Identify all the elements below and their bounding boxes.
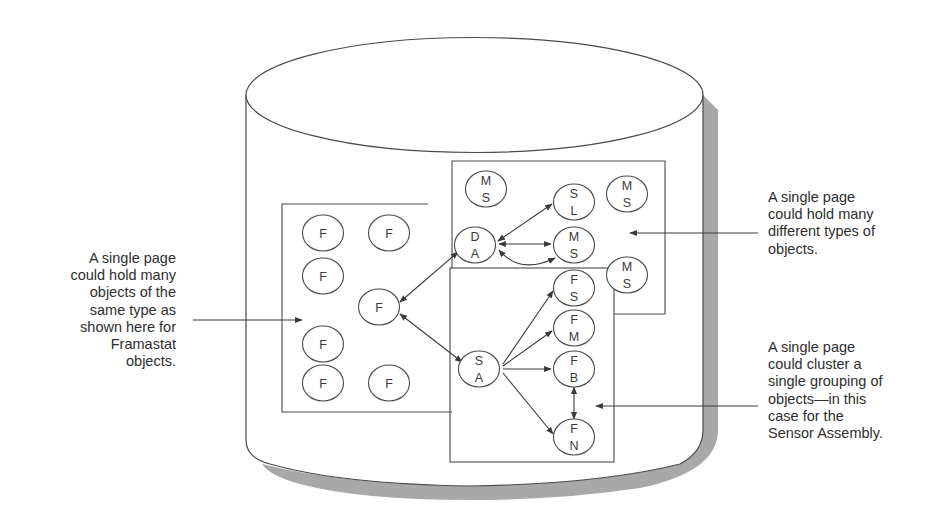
object-node-sa: SA [459, 351, 500, 387]
object-node-sl: SL [554, 184, 595, 220]
node-label: S [482, 191, 490, 205]
callout-line: Sensor Assembly. [768, 425, 883, 442]
object-node-f6: F [369, 365, 410, 401]
object-node-f-hub: F [359, 289, 400, 325]
callout-line: objects. [768, 241, 875, 258]
node-label: S [623, 196, 631, 210]
callout-line: A single page [768, 189, 875, 206]
node-label: S [570, 187, 578, 201]
node-label: F [319, 338, 327, 352]
node-label: M [622, 179, 632, 193]
callout-sensor-assembly: A single page could cluster a single gro… [768, 339, 883, 442]
node-label: F [570, 273, 578, 287]
callout-same-type: A single page could hold many objects of… [70, 250, 176, 370]
object-node-fm: FM [554, 310, 595, 346]
node-label: S [570, 290, 578, 304]
object-node-f2: F [369, 215, 410, 251]
object-node-da: DA [455, 227, 496, 263]
node-label: B [570, 371, 578, 385]
node-label: M [569, 330, 579, 344]
object-node-ms2: MS [607, 176, 648, 212]
node-label: S [623, 277, 631, 291]
callout-line: case for the [768, 408, 883, 425]
node-label: F [385, 227, 393, 241]
database-cylinder-top [246, 38, 703, 153]
node-label: A [475, 371, 484, 385]
node-label: F [319, 377, 327, 391]
node-label: M [481, 174, 491, 188]
node-label: M [622, 260, 632, 274]
database-diagram: FFFFFFFMSSLMSDAMSMSFSFMSAFBFN A single p… [0, 0, 936, 528]
callout-line: objects of the [70, 284, 176, 301]
node-label: S [475, 354, 483, 368]
callout-line: could hold many [768, 206, 875, 223]
object-node-fn: FN [554, 419, 595, 455]
object-node-f3: F [303, 258, 344, 294]
node-label: A [471, 247, 480, 261]
node-label: L [571, 204, 578, 218]
node-label: F [319, 270, 327, 284]
callout-line: objects. [70, 353, 176, 370]
node-label: M [569, 230, 579, 244]
callout-line: could cluster a [768, 356, 883, 373]
callout-line: different types of [768, 223, 875, 240]
object-node-fb: FB [554, 351, 595, 387]
node-label: F [570, 313, 578, 327]
object-node-ms4: MS [607, 257, 648, 293]
callout-line: could hold many [70, 267, 176, 284]
object-node-fs: FS [554, 270, 595, 306]
object-node-f5: F [303, 365, 344, 401]
node-label: N [569, 439, 578, 453]
callout-line: Framastat [70, 336, 176, 353]
node-label: F [570, 354, 578, 368]
callout-line: shown here for [70, 319, 176, 336]
callout-line: same type as [70, 302, 176, 319]
object-node-f1: F [303, 215, 344, 251]
node-label: F [319, 227, 327, 241]
callout-different-types: A single page could hold many different … [768, 189, 875, 258]
node-label: F [570, 422, 578, 436]
node-label: D [470, 230, 479, 244]
node-label: S [570, 247, 578, 261]
callout-line: A single page [768, 339, 883, 356]
object-node-ms3: MS [554, 227, 595, 263]
callout-line: A single page [70, 250, 176, 267]
node-label: F [385, 377, 393, 391]
callout-line: single grouping of [768, 373, 883, 390]
object-node-f4: F [303, 326, 344, 362]
node-label: F [375, 301, 383, 315]
object-node-ms1: MS [466, 171, 507, 207]
callout-line: objects—in this [768, 391, 883, 408]
